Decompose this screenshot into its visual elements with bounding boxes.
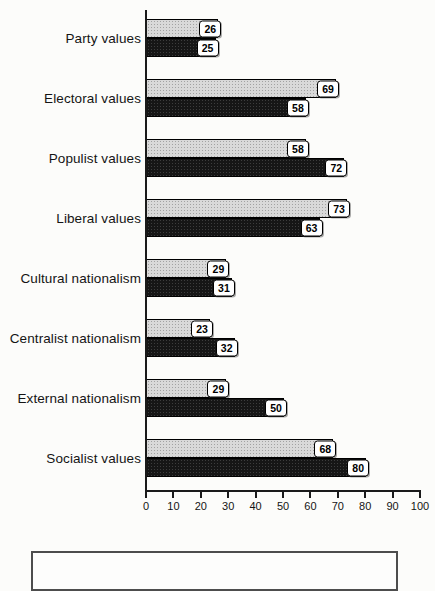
value-label: 72 [325, 159, 347, 176]
x-tick-label: 100 [411, 500, 429, 512]
value-label: 32 [216, 339, 238, 356]
bar-black-stippled: 72 [147, 158, 344, 177]
value-label: 29 [207, 380, 229, 397]
bar-gray-stippled: 69 [147, 79, 336, 98]
legend-box [31, 551, 398, 591]
bar-black-stippled: 58 [147, 98, 306, 117]
x-tick-label: 50 [277, 500, 289, 512]
y-axis-line [145, 10, 147, 490]
value-label: 63 [301, 219, 323, 236]
bar-gray-stippled: 68 [147, 439, 333, 458]
value-label: 50 [265, 399, 287, 416]
bar-black-stippled: 31 [147, 278, 232, 297]
x-tick [172, 492, 174, 498]
bar-pair: 7363 [147, 199, 421, 237]
value-label: 26 [199, 20, 221, 37]
category-label: External nationalism [0, 379, 141, 417]
value-label: 31 [213, 279, 235, 296]
x-tick [200, 492, 202, 498]
bar-pair: 6958 [147, 79, 421, 117]
bar-black-stippled: 63 [147, 218, 320, 237]
bar-gray-stippled: 23 [147, 319, 210, 338]
x-axis-tick-labels: 0102030405060708090100 [146, 500, 420, 513]
bar-black-stippled: 50 [147, 398, 284, 417]
bar-pair: 2950 [147, 379, 421, 417]
x-tick-label: 40 [249, 500, 261, 512]
value-label: 29 [207, 260, 229, 277]
bar-group: Populist values5872 [0, 130, 435, 190]
x-tick-label: 20 [195, 500, 207, 512]
category-label: Populist values [0, 139, 141, 177]
bar-group: Liberal values7363 [0, 190, 435, 250]
category-label: Electoral values [0, 79, 141, 117]
bar-pair: 6880 [147, 439, 421, 477]
bar-gray-stippled: 58 [147, 139, 306, 158]
category-label: Socialist values [0, 439, 141, 477]
bar-black-stippled: 32 [147, 338, 235, 357]
x-tick-label: 80 [359, 500, 371, 512]
bar-group: Party values2625 [0, 10, 435, 70]
category-label: Party values [0, 19, 141, 57]
x-tick [419, 492, 421, 498]
x-tick-label: 60 [304, 500, 316, 512]
x-tick [364, 492, 366, 498]
x-tick-label: 70 [332, 500, 344, 512]
bar-pair: 2332 [147, 319, 421, 357]
x-tick [282, 492, 284, 498]
value-label: 58 [287, 99, 309, 116]
value-label: 25 [197, 39, 219, 56]
category-label: Centralist nationalism [0, 319, 141, 357]
x-tick [309, 492, 311, 498]
bar-gray-stippled: 26 [147, 19, 218, 38]
category-label: Cultural nationalism [0, 259, 141, 297]
bar-group: Electoral values6958 [0, 70, 435, 130]
bar-group: Socialist values6880 [0, 430, 435, 490]
bar-group: Cultural nationalism2931 [0, 250, 435, 310]
bar-pair: 5872 [147, 139, 421, 177]
x-tick-label: 10 [167, 500, 179, 512]
bar-black-stippled: 80 [147, 458, 366, 477]
x-tick-label: 90 [386, 500, 398, 512]
bar-gray-stippled: 29 [147, 379, 226, 398]
value-label: 68 [314, 440, 336, 457]
bar-gray-stippled: 29 [147, 259, 226, 278]
value-label: 69 [317, 80, 339, 97]
x-tick [145, 492, 147, 498]
value-label: 73 [328, 200, 350, 217]
bar-pair: 2931 [147, 259, 421, 297]
value-label: 80 [347, 459, 369, 476]
bar-gray-stippled: 73 [147, 199, 347, 218]
x-tick [392, 492, 394, 498]
value-label: 23 [191, 320, 213, 337]
x-tick [255, 492, 257, 498]
value-label: 58 [287, 140, 309, 157]
bar-group: External nationalism2950 [0, 370, 435, 430]
x-tick [337, 492, 339, 498]
category-label: Liberal values [0, 199, 141, 237]
x-tick-label: 30 [222, 500, 234, 512]
bar-pair: 2625 [147, 19, 421, 57]
x-tick [227, 492, 229, 498]
x-axis-ticks [146, 492, 420, 498]
bar-group: Centralist nationalism2332 [0, 310, 435, 370]
x-tick-label: 0 [143, 500, 149, 512]
bar-black-stippled: 25 [147, 38, 216, 57]
